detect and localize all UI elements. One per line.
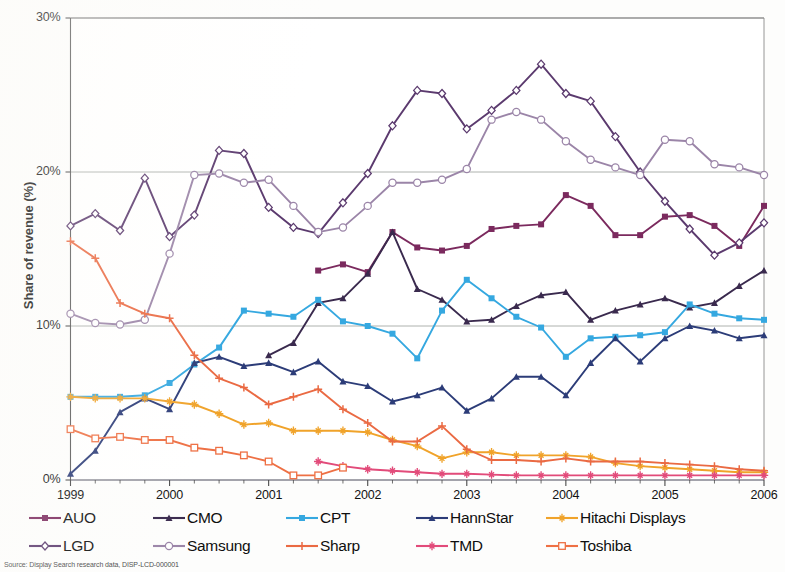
legend-label: Hitachi Displays	[580, 509, 685, 527]
legend-row-2: LGDSamsungSharpTMDToshiba	[0, 533, 785, 559]
legend-label: CPT	[320, 509, 350, 527]
legend-label: AUO	[63, 509, 96, 527]
y-axis-title: Share of revenue (%)	[21, 156, 36, 336]
legend-swatch	[152, 539, 186, 553]
legend-swatch	[28, 539, 62, 553]
legend-marker-circle-icon	[152, 539, 186, 553]
legend-label: TMD	[450, 537, 483, 555]
legend-marker-plus-icon	[285, 539, 319, 553]
legend-item-lgd[interactable]: LGD	[28, 533, 94, 559]
legend-row-1: AUOCMOCPTHannStarHitachi Displays	[0, 505, 785, 531]
legend-item-tmd[interactable]: TMD	[415, 533, 483, 559]
legend-swatch	[415, 539, 449, 553]
x-tick-2003: 2003	[444, 488, 490, 502]
legend-swatch	[415, 511, 449, 525]
legend-swatch	[545, 539, 579, 553]
legend-item-toshiba[interactable]: Toshiba	[545, 533, 631, 559]
y-tick-0pct: 0%	[19, 472, 61, 486]
legend-swatch	[28, 511, 62, 525]
legend-item-samsung[interactable]: Samsung	[152, 533, 250, 559]
legend-marker-star-icon	[545, 511, 579, 525]
legend-swatch	[545, 511, 579, 525]
x-tick-2005: 2005	[642, 488, 688, 502]
line-chart: 0%10%20%30% 1999200020012002200320042005…	[0, 0, 785, 500]
legend-marker-square-icon	[285, 511, 319, 525]
chart-legend: AUOCMOCPTHannStarHitachi Displays LGDSam…	[0, 505, 785, 559]
legend-marker-diamond-icon	[28, 539, 62, 553]
legend-label: CMO	[187, 509, 222, 527]
x-tick-1999: 1999	[48, 488, 94, 502]
legend-item-hitachi-displays[interactable]: Hitachi Displays	[545, 505, 685, 531]
legend-item-hannstar[interactable]: HannStar	[415, 505, 513, 531]
legend-label: HannStar	[450, 509, 513, 527]
x-tick-2001: 2001	[246, 488, 292, 502]
legend-marker-opensquare-icon	[545, 539, 579, 553]
chart-page: 0%10%20%30% 1999200020012002200320042005…	[0, 0, 785, 572]
legend-item-auo[interactable]: AUO	[28, 505, 96, 531]
legend-label: Toshiba	[580, 537, 631, 555]
legend-swatch	[285, 539, 319, 553]
legend-marker-triangle-icon	[152, 511, 186, 525]
x-tick-2006: 2006	[741, 488, 785, 502]
legend-item-cmo[interactable]: CMO	[152, 505, 222, 531]
plot-canvas	[0, 0, 785, 500]
legend-swatch	[152, 511, 186, 525]
legend-label: Sharp	[320, 537, 360, 555]
legend-label: Samsung	[187, 537, 250, 555]
y-tick-30pct: 30%	[19, 10, 61, 24]
legend-marker-star-icon	[415, 539, 449, 553]
legend-label: LGD	[63, 537, 94, 555]
legend-item-cpt[interactable]: CPT	[285, 505, 350, 531]
x-tick-2002: 2002	[345, 488, 391, 502]
legend-item-sharp[interactable]: Sharp	[285, 533, 360, 559]
source-footnote: Source: Display Search research data, DI…	[4, 561, 179, 568]
legend-swatch	[285, 511, 319, 525]
x-tick-2000: 2000	[147, 488, 193, 502]
x-tick-2004: 2004	[543, 488, 589, 502]
legend-marker-square-icon	[28, 511, 62, 525]
legend-marker-triangle-icon	[415, 511, 449, 525]
